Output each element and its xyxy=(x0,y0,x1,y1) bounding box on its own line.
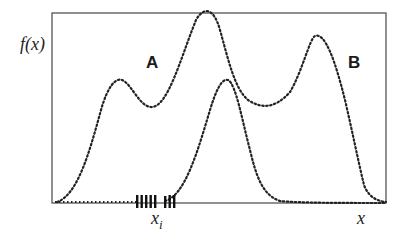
plot-frame xyxy=(52,13,386,203)
curve-a-label: A xyxy=(146,53,158,72)
x-axis-label: x xyxy=(356,208,365,228)
sample-ticks xyxy=(136,195,175,208)
y-axis-label: f(x) xyxy=(20,34,45,55)
curve-a xyxy=(57,11,386,202)
density-figure: f(x) x xi A B xyxy=(0,0,412,239)
sample-label: xi xyxy=(150,208,163,232)
curve-b-label: B xyxy=(348,53,360,72)
curve-b xyxy=(165,80,386,203)
